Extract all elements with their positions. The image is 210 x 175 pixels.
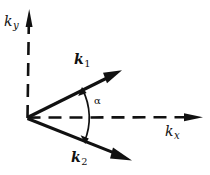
angle-label-alpha: α xyxy=(94,96,101,106)
axis-label-ky: ky xyxy=(4,14,19,31)
axis-label-ky-subscript: y xyxy=(12,20,18,31)
vector-label-k1-subscript: 1 xyxy=(84,58,91,69)
vector-label-k1-symbol: k xyxy=(74,51,84,67)
angle-arc xyxy=(83,90,90,142)
y-axis-dashed-line xyxy=(28,24,29,118)
vector-label-k1: k1 xyxy=(74,52,90,69)
vector-label-k2-subscript: 2 xyxy=(81,156,88,167)
axis-label-kx-subscript: x xyxy=(173,130,179,141)
vector-label-k2-symbol: k xyxy=(71,149,81,165)
x-axis-arrow-icon xyxy=(184,113,203,121)
vector-k2-arrow-icon xyxy=(110,148,132,161)
vector-k1-arrow-icon xyxy=(103,70,122,83)
vector-label-k2: k2 xyxy=(71,150,87,167)
vector-diagram-canvas xyxy=(0,0,210,175)
wave-vector-figure: ky kx k1 k2 α xyxy=(0,0,210,175)
y-axis-arrow-icon xyxy=(26,9,33,27)
axis-label-kx: kx xyxy=(165,124,180,141)
